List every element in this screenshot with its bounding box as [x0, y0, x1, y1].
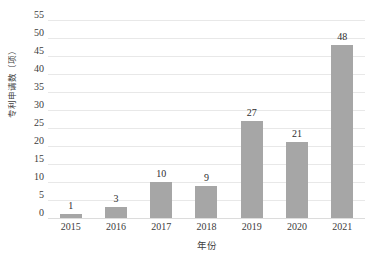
- bar: [60, 214, 82, 218]
- bar: [286, 142, 308, 218]
- y-axis-tick-labels: 0510152025303540455055: [22, 14, 44, 218]
- bar-slot: 10: [139, 20, 184, 218]
- x-axis-tick-label: 2016: [106, 221, 126, 232]
- x-axis-title: 年份: [48, 238, 365, 252]
- x-axis-tick-label: 2015: [61, 221, 81, 232]
- y-axis-tick-label: 40: [22, 63, 44, 74]
- bar-slot: 48: [320, 20, 365, 218]
- x-axis-tick-label: 2020: [287, 221, 307, 232]
- y-axis-tick-label: 45: [22, 45, 44, 56]
- y-axis-tick-label: 15: [22, 153, 44, 164]
- bar-slot: 27: [229, 20, 274, 218]
- y-axis-title: 专利申请数（项）: [5, 27, 17, 137]
- bar: [105, 207, 127, 218]
- y-axis-tick-label: 30: [22, 99, 44, 110]
- bar-value-label: 1: [68, 200, 73, 211]
- y-axis-tick-label: 20: [22, 135, 44, 146]
- x-axis-tick-labels: 2015201620172018201920202021: [48, 221, 365, 237]
- bars-layer: 13109272148: [48, 20, 365, 218]
- x-axis-tick-label: 2017: [151, 221, 171, 232]
- y-axis-tick-label: 55: [22, 9, 44, 20]
- bar-slot: 21: [274, 20, 319, 218]
- x-axis-tick-label: 2018: [197, 221, 217, 232]
- y-axis-tick-label: 0: [22, 207, 44, 218]
- bar-value-label: 27: [247, 107, 257, 118]
- y-axis-tick-label: 5: [22, 189, 44, 200]
- bar: [150, 182, 172, 218]
- y-axis-tick-label: 10: [22, 171, 44, 182]
- bar: [241, 121, 263, 218]
- y-axis-tick-label: 25: [22, 117, 44, 128]
- axis-baseline: [48, 218, 365, 219]
- x-axis-tick-label: 2021: [332, 221, 352, 232]
- y-axis-tick-label: 50: [22, 27, 44, 38]
- bar-slot: 3: [93, 20, 138, 218]
- bar-value-label: 48: [337, 31, 347, 42]
- bar-slot: 9: [184, 20, 229, 218]
- bar-value-label: 3: [113, 193, 118, 204]
- bar: [195, 186, 217, 218]
- bar: [331, 45, 353, 218]
- x-axis-tick-label: 2019: [242, 221, 262, 232]
- bar-slot: 1: [48, 20, 93, 218]
- bar-value-label: 10: [156, 168, 166, 179]
- bar-chart: 专利申请数（项） 0510152025303540455055 13109272…: [0, 0, 376, 262]
- bar-value-label: 21: [292, 128, 302, 139]
- y-axis-tick-label: 35: [22, 81, 44, 92]
- bar-value-label: 9: [204, 172, 209, 183]
